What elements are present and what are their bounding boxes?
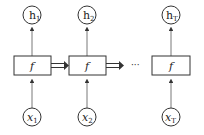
- recurrent-arrow-2-next: [106, 61, 124, 70]
- step-T: hT f xT: [152, 6, 190, 126]
- step-1: h1 f x1: [14, 6, 51, 126]
- ellipsis: ···: [131, 60, 140, 70]
- rnn-diagram: h1 f x1 h2 f x2 ··· hT f: [0, 0, 204, 135]
- double-arrow-icon: [64, 61, 69, 70]
- step-2: h2 f x2: [69, 6, 106, 126]
- double-arrow-icon: [119, 61, 124, 70]
- recurrent-arrow-1-2: [51, 61, 69, 70]
